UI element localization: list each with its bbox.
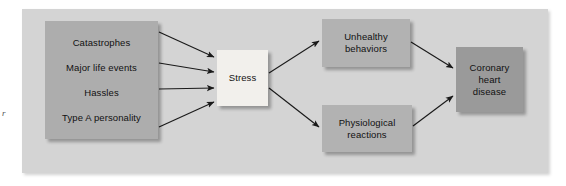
node-unhealthy-behaviors[interactable]: Unhealthy behaviors — [322, 19, 410, 67]
node-stressors[interactable]: Catastrophes Major life events Hassles T… — [45, 21, 158, 139]
node-stressors-line-4: Type A personality — [62, 112, 141, 124]
node-stressors-line-2: Major life events — [66, 62, 137, 74]
node-physiological-line-1: Physiological — [339, 117, 396, 129]
node-coronary-line-1: Coronary — [470, 62, 510, 74]
node-physiological-line-2: reactions — [347, 129, 386, 141]
node-coronary-heart-disease[interactable]: Coronary heart disease — [456, 47, 523, 112]
node-stress-label: Stress — [229, 72, 257, 84]
node-stressors-line-1: Catastrophes — [73, 37, 131, 49]
node-stressors-line-3: Hassles — [84, 87, 119, 99]
node-unhealthy-line-2: behaviors — [345, 43, 387, 55]
node-unhealthy-line-1: Unhealthy — [344, 31, 388, 43]
node-coronary-line-3: disease — [473, 86, 506, 98]
node-stress[interactable]: Stress — [217, 50, 268, 106]
node-physiological-reactions[interactable]: Physiological reactions — [322, 105, 412, 152]
node-coronary-line-2: heart — [478, 74, 500, 86]
diagram-figure: r Catastrophes Major life events Hassles… — [0, 0, 566, 186]
margin-mark: r — [2, 108, 6, 118]
